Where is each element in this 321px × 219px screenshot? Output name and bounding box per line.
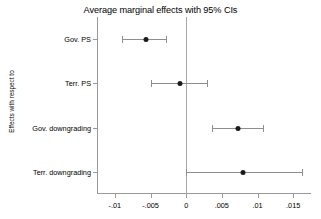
estimate-marker — [177, 81, 182, 86]
y-axis-spine — [97, 17, 98, 194]
x-tick-label: .015 — [286, 201, 300, 210]
ci-cap-lower — [212, 125, 213, 132]
x-tick-mark — [115, 194, 116, 198]
x-tick-mark — [151, 194, 152, 198]
y-tick-mark — [93, 172, 97, 173]
estimate-row — [97, 39, 311, 40]
ci-cap-lower — [151, 80, 152, 87]
estimate-marker — [235, 126, 240, 131]
estimate-row — [97, 172, 311, 173]
y-tick-label: Terr. downgrading — [33, 167, 91, 176]
x-axis-spine — [97, 193, 311, 194]
x-tick-mark — [186, 194, 187, 198]
estimate-marker — [143, 37, 148, 42]
ci-cap-upper — [207, 80, 208, 87]
x-tick-mark — [222, 194, 223, 198]
y-tick-mark — [93, 83, 97, 84]
x-tick-mark — [258, 194, 259, 198]
y-axis-title: Effects with respect to — [8, 47, 15, 157]
y-tick-mark — [93, 128, 97, 129]
ci-cap-lower — [186, 169, 187, 176]
ci-cap-lower — [122, 36, 123, 43]
ci-cap-upper — [302, 169, 303, 176]
y-tick-mark — [93, 39, 97, 40]
x-tick-mark — [293, 194, 294, 198]
x-tick-label: -.005 — [142, 201, 159, 210]
x-tick-label: 0 — [184, 201, 188, 210]
ci-cap-upper — [166, 36, 167, 43]
chart-title: Average marginal effects with 95% CIs — [0, 5, 321, 15]
estimate-row — [97, 83, 311, 84]
estimate-marker — [241, 170, 246, 175]
estimate-row — [97, 128, 311, 129]
y-tick-label: Gov. downgrading — [32, 123, 91, 132]
x-tick-label: .01 — [252, 201, 262, 210]
y-tick-label: Gov. PS — [64, 35, 91, 44]
coefficient-plot-figure: Average marginal effects with 95% CIs Ef… — [0, 0, 321, 219]
ci-cap-upper — [263, 125, 264, 132]
y-tick-label: Terr. PS — [65, 79, 91, 88]
x-tick-label: .005 — [215, 201, 229, 210]
plot-area: Gov. PSTerr. PSGov. downgradingTerr. dow… — [97, 17, 311, 194]
zero-reference-line — [186, 17, 187, 194]
x-tick-label: -.01 — [109, 201, 122, 210]
